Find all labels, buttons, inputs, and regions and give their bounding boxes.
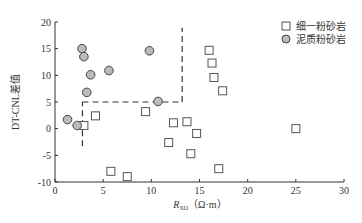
data-point-square xyxy=(219,87,227,95)
data-point-square xyxy=(165,139,173,147)
legend-circle-icon xyxy=(282,35,290,43)
y-tick-label: 5 xyxy=(46,97,51,108)
data-point-square xyxy=(169,119,177,127)
y-tick-label: 20 xyxy=(41,17,51,28)
data-point-circle xyxy=(145,47,154,56)
data-point-square xyxy=(208,59,216,67)
data-point-square xyxy=(142,108,150,116)
data-point-circle xyxy=(82,88,91,97)
y-tick-label: 0 xyxy=(46,123,51,134)
x-tick-label: 10 xyxy=(146,185,156,196)
data-point-square xyxy=(215,165,223,173)
x-tick-label: 25 xyxy=(291,185,301,196)
data-point-circle xyxy=(80,52,89,61)
x-axis-label-main: R xyxy=(172,199,179,210)
data-point-square xyxy=(193,129,201,137)
data-point-circle xyxy=(78,44,87,53)
data-point-square xyxy=(123,173,131,181)
x-tick-label: 5 xyxy=(101,185,106,196)
data-point-square xyxy=(210,73,218,81)
data-point-circle xyxy=(73,121,82,130)
legend: 细一粉砂岩 泥质粉砂岩 xyxy=(282,20,346,45)
x-tick-label: 0 xyxy=(53,185,58,196)
y-axis-label: DT-CNL差值 xyxy=(9,74,21,130)
legend-label-fine-siltstone: 细一粉砂岩 xyxy=(296,20,346,32)
data-point-square xyxy=(183,118,191,126)
x-tick-label: 20 xyxy=(243,185,253,196)
data-point-square xyxy=(292,125,300,133)
data-point-square xyxy=(91,112,99,120)
data-point-circle xyxy=(154,97,163,106)
data-point-circle xyxy=(63,115,72,124)
y-tick-label: -5 xyxy=(43,150,51,161)
data-point-circle xyxy=(105,66,114,75)
data-point-square xyxy=(205,46,213,54)
x-tick-label: 15 xyxy=(195,185,205,196)
plot-area xyxy=(63,28,300,181)
y-tick-label: 15 xyxy=(41,43,51,54)
data-point-square xyxy=(107,167,115,175)
legend-square-icon xyxy=(282,22,290,30)
y-tick-label: -10 xyxy=(38,177,51,188)
x-tick-label: 30 xyxy=(339,185,349,196)
data-point-square xyxy=(187,150,195,158)
data-point-circle xyxy=(86,71,95,80)
x-axis-label-unit: （Ω·m） xyxy=(188,199,227,210)
y-tick-label: 10 xyxy=(41,70,51,81)
scatter-chart: -10-505101520 051015202530 DT-CNL差值 RXO（… xyxy=(0,0,362,223)
legend-label-muddy-siltstone: 泥质粉砂岩 xyxy=(296,33,346,45)
x-axis-label: RXO（Ω·m） xyxy=(172,199,226,211)
